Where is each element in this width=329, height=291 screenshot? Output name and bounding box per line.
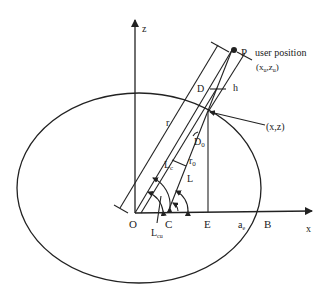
z-axis-label: z [142,23,147,34]
point-c-label: C [165,218,172,230]
user-position-label: user position [255,47,306,58]
r0-tick [172,160,186,166]
r-dimension-tick-top [211,42,229,52]
d-label: D [197,83,204,94]
lc-angle-arc [153,178,170,208]
x-axis-label: x [306,223,311,234]
point-p-label: P [241,46,247,58]
h-line [208,53,245,112]
r-line [135,50,232,213]
point-e-label: E [204,218,211,230]
lcu-angle-arc [148,192,163,211]
earth-ellipse [17,93,261,283]
user-point [231,47,237,53]
r0-label: r0 [189,155,196,168]
d0-label: D0 [194,136,205,149]
l-small-arc [173,203,178,211]
surface-point-pointer [210,112,265,125]
h-label: h [233,82,238,93]
lc-label: Lc [164,159,173,172]
ae-label: ae [238,219,245,231]
point-b-label: B [264,218,271,230]
ellipsoid-geometry-diagram: z x O C E B P user position (xu,zu) (x,z… [0,0,329,291]
l-label: L [187,173,193,184]
user-coords-label: (xu,zu) [256,62,279,73]
surface-point-label: (x,z) [266,121,285,133]
lcu-label: Lcu [151,227,163,239]
x-axis [135,211,312,213]
point-o-label: O [129,218,137,230]
